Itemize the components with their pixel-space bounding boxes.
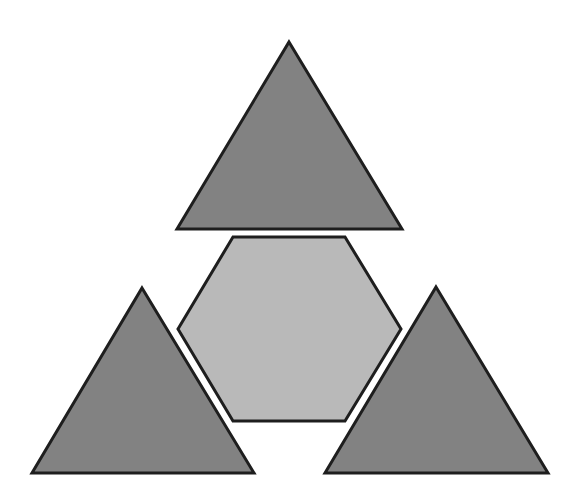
triangles-around-hexagon-diagram: [0, 0, 582, 493]
